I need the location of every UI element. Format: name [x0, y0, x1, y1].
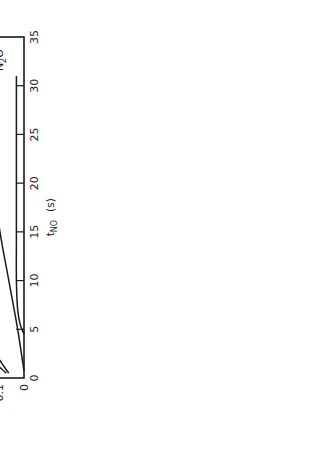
chart: 05101520253035 00.10.20.30.40.50.60.70.8… [0, 0, 327, 451]
x-tick-label: 15 [28, 225, 41, 239]
chart-svg: 05101520253035 00.10.20.30.40.50.60.70.8… [0, 0, 327, 451]
series-line-nh3 [0, 86, 9, 373]
rotated-plot: 05101520253035 00.10.20.30.40.50.60.70.8… [0, 30, 59, 425]
series-line-h2o [0, 86, 6, 373]
series-label-n2o: N2O [0, 49, 7, 71]
x-tick-label: 20 [28, 176, 41, 190]
series-curves [0, 76, 24, 373]
series-line-n2o [16, 76, 24, 334]
x-axis-ticks: 05101520253035 [0, 30, 41, 382]
x-tick-label: 35 [28, 30, 41, 44]
x-tick-label: 5 [28, 326, 41, 333]
y-axis-ticks: 00.10.20.30.40.50.60.70.80.91.0 [0, 370, 31, 402]
x-axis-title: tNO(s) [44, 198, 59, 236]
x-tick-label: 30 [28, 79, 41, 93]
x-tick-label: 10 [28, 274, 41, 288]
x-tick-label: 0 [28, 375, 41, 382]
x-tick-label: 25 [28, 127, 41, 141]
series-labels: H2ONH3N2N2O [0, 49, 7, 125]
y-tick-label: 0 [18, 384, 31, 391]
series-line-n2 [0, 86, 24, 371]
y-tick-label: 0.1 [0, 384, 6, 402]
